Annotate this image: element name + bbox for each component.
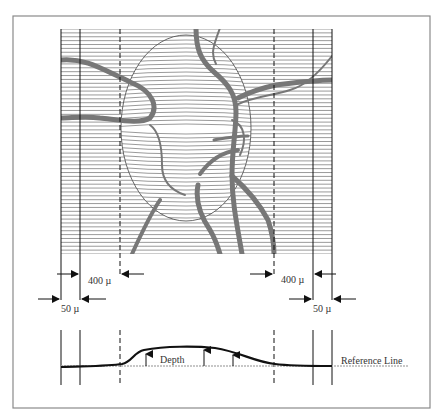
optic-disc: [110, 32, 262, 230]
right-50-label: 50 µ: [313, 303, 332, 314]
dimension-arrows: [38, 274, 356, 299]
depth-label: Depth: [160, 354, 184, 365]
reference-line-label: Reference Line: [341, 355, 403, 366]
optic-disc-diagram: 400 µ 400 µ 50 µ 50 µ Depth Reference Li…: [0, 0, 441, 416]
right-400-label: 400 µ: [281, 274, 305, 285]
left-50-label: 50 µ: [61, 303, 80, 314]
left-400-label: 400 µ: [88, 275, 112, 286]
depth-profile: Depth Reference Line: [61, 330, 408, 385]
depth-curve: [61, 347, 332, 367]
